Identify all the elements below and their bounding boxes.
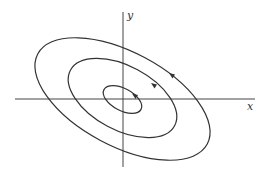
phase-diagram: y x bbox=[0, 0, 267, 177]
outer-ellipse bbox=[16, 12, 230, 177]
y-axis-label: y bbox=[126, 9, 134, 22]
middle-arrow-icon bbox=[151, 83, 157, 89]
x-axis-label: x bbox=[247, 100, 254, 113]
outer-arrow-icon bbox=[169, 73, 175, 79]
inner-arrow-icon bbox=[132, 94, 138, 100]
